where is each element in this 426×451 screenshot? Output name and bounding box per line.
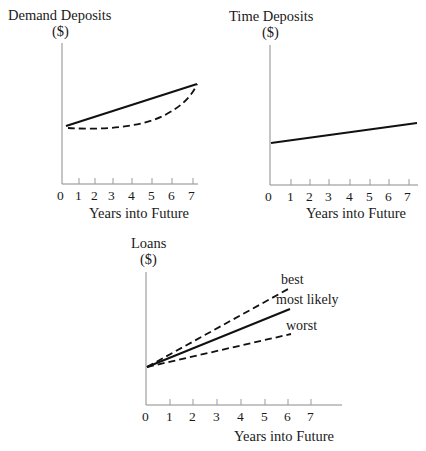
svg-text:4: 4 [346,189,353,204]
svg-text:7: 7 [404,189,411,204]
series-most-likely [147,309,290,367]
svg-text:5: 5 [261,409,268,424]
svg-text:7: 7 [307,409,314,424]
svg-text:3: 3 [325,189,332,204]
svg-text:2: 2 [189,409,196,424]
series-best [147,288,290,367]
svg-text:4: 4 [128,188,135,203]
y-axis-unit: ($) [52,23,69,40]
svg-text:7: 7 [188,188,195,203]
x-ticks [79,178,193,184]
svg-text:6: 6 [284,409,291,424]
svg-text:1: 1 [75,188,82,203]
svg-text:5: 5 [366,189,373,204]
x-ticks [170,399,311,405]
chart-loans: Loans ($) 0 1 2 3 4 5 6 7 Years into Fut… [131,235,342,444]
x-axis-label: Years into Future [234,428,334,444]
x-ticks [291,179,409,185]
svg-text:6: 6 [385,189,392,204]
label-worst: worst [286,318,317,333]
x-axis-label: Years into Future [306,205,406,221]
svg-text:0: 0 [265,189,272,204]
label-best: best [281,272,304,287]
chart-title: Time Deposits [229,8,314,24]
svg-text:1: 1 [287,189,294,204]
x-axis-label: Years into Future [89,205,189,221]
series-worst [147,334,291,367]
label-most-likely: most likely [276,292,339,307]
chart-title: Demand Deposits [8,7,112,23]
svg-text:6: 6 [168,188,175,203]
svg-text:5: 5 [148,188,155,203]
chart-demand-deposits: Demand Deposits ($) 0 1 2 3 4 5 6 7 Year… [8,7,198,221]
svg-text:1: 1 [166,409,173,424]
series-projection [271,123,417,143]
x-tick-labels: 0 1 2 3 4 5 6 7 [142,409,314,424]
charts-canvas: Demand Deposits ($) 0 1 2 3 4 5 6 7 Year… [0,0,426,451]
svg-text:3: 3 [108,188,115,203]
series-linear [66,84,197,126]
x-tick-labels: 0 1 2 3 4 5 6 7 [265,189,411,204]
svg-text:0: 0 [142,409,149,424]
svg-text:2: 2 [91,188,98,203]
y-axis-unit: ($) [140,251,157,268]
svg-text:3: 3 [213,409,220,424]
x-tick-labels: 0 1 2 3 4 5 6 7 [57,188,195,203]
y-axis-unit: ($) [262,24,279,41]
chart-title: Loans [131,235,167,251]
svg-text:4: 4 [237,409,244,424]
svg-text:2: 2 [306,189,313,204]
chart-time-deposits: Time Deposits ($) 0 1 2 3 4 5 6 7 Years … [229,8,418,221]
svg-text:0: 0 [57,188,64,203]
